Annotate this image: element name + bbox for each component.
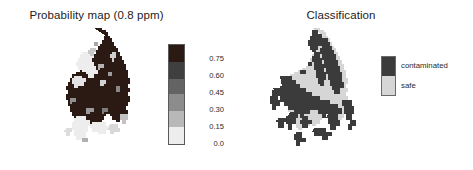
classification-panel-title: Classification [223, 9, 459, 21]
colorbar-tick-3: 0.30 [209, 105, 224, 114]
colorbar-tick-1: 0.60 [209, 71, 224, 80]
legend-label-safe: safe [401, 81, 416, 90]
colorbar-tick-0: 0.75 [209, 54, 224, 63]
legend-swatch-safe [382, 76, 395, 95]
colorbar-strip [168, 44, 185, 145]
legend-swatch-contaminated [382, 57, 395, 76]
probability-map-image [50, 28, 150, 152]
colorbar-band-1 [169, 62, 184, 79]
classification-panel: Classification [237, 0, 473, 170]
legend-swatch [381, 56, 396, 96]
colorbar-band-3 [169, 94, 184, 111]
colorbar-band-4 [169, 111, 184, 127]
colorbar-band-2 [169, 79, 184, 95]
colorbar-tick-2: 0.45 [209, 88, 224, 97]
colorbar-band-5 [169, 127, 184, 144]
colorbar-band-0 [169, 45, 184, 62]
legend-label-contaminated: contaminated [401, 61, 448, 70]
colorbar-tick-5: 0.0 [213, 139, 224, 148]
colorbar-tick-labels: 0.75 0.60 0.45 0.30 0.15 0.0 [190, 38, 224, 151]
probability-panel-title: Probability map (0.8 ppm) [0, 9, 215, 21]
colorbar-tick-4: 0.15 [209, 122, 224, 131]
probability-panel: Probability map (0.8 ppm) [0, 0, 237, 170]
classification-map-image [262, 28, 374, 154]
